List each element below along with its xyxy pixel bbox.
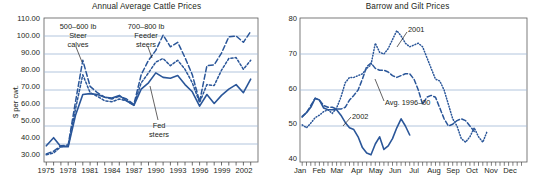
chart-annual-average-cattle-prices: Annual Average Cattle Prices $ per cwt. …: [0, 0, 267, 189]
annotation-2002: 2002: [352, 112, 368, 121]
chart-barrow-and-gilt-prices: Barrow and Gilt Prices $ per cwt. 80 70 …: [267, 0, 534, 189]
annotation-2001: 2001: [408, 25, 424, 34]
x-axis-ticks-left: [46, 162, 250, 166]
annotation-feeder-steers-line1: 700–800 lb: [118, 22, 174, 31]
annotation-feeder-steers: 700–800 lb Feeder steers: [118, 22, 174, 49]
annotation-feeder-steers-line3: steers: [118, 40, 174, 49]
annotation-avg-1996-00: Avg. 1996–00: [385, 98, 430, 107]
annotation-steer-calves-line3: calves: [50, 40, 106, 49]
x-axis-ticks-right: [302, 162, 521, 166]
annotation-feeder-steers-line2: Feeder: [118, 31, 174, 40]
annotation-steer-calves-line1: 500–600 lb: [50, 22, 106, 31]
plot-area-right: [267, 0, 534, 189]
annotation-steer-calves-line2: Steer: [50, 31, 106, 40]
footer-spacer: [0, 186, 534, 189]
annotation-steer-calves: 500–600 lb Steer calves: [50, 22, 106, 49]
annotation-fed-steers-line1: Fed: [138, 121, 180, 130]
annotation-fed-steers-line2: steers: [138, 130, 180, 139]
chart-figure: Annual Average Cattle Prices $ per cwt. …: [0, 0, 534, 189]
annotation-fed-steers: Fed steers: [138, 121, 180, 139]
